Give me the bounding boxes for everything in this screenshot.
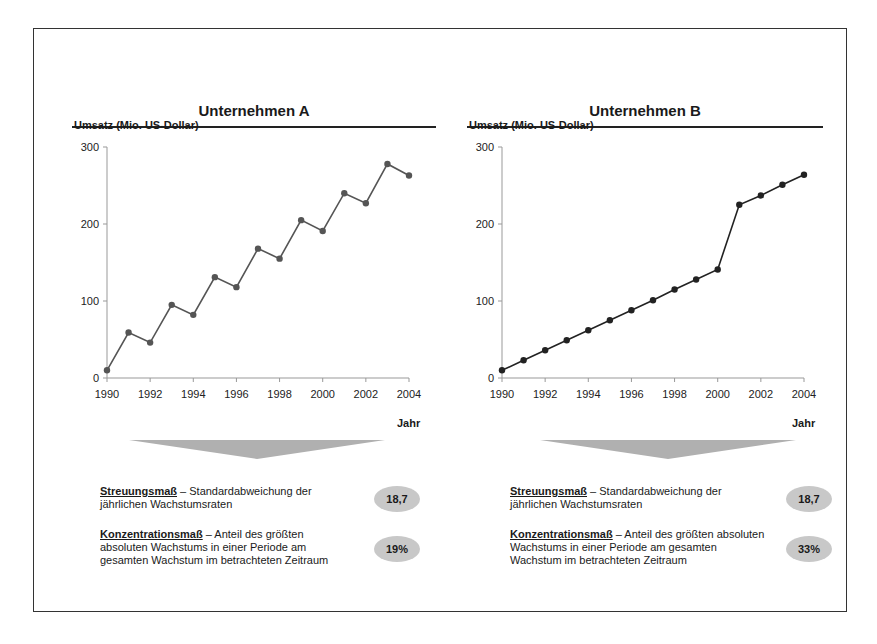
measure-term: Konzentrationsmaß bbox=[510, 528, 613, 540]
measure-streuung: Streuungsmaß – Standardabweichung der jä… bbox=[510, 485, 770, 511]
measure-konzentration: Konzentrationsmaß – Anteil des größten a… bbox=[510, 528, 770, 567]
measure-term: Streuungsmaß bbox=[510, 485, 587, 497]
value-badge: 33% bbox=[786, 536, 832, 562]
value-badge: 18,7 bbox=[786, 486, 832, 512]
